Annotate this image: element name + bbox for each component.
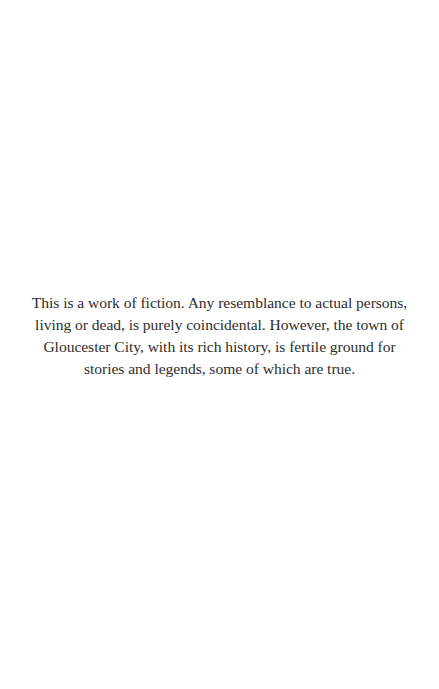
disclaimer-line-2: living or dead, is purely coincidental. … (30, 314, 409, 336)
disclaimer-line-3: Gloucester City, with its rich history, … (30, 336, 409, 358)
book-page: This is a work of fiction. Any resemblan… (0, 0, 439, 689)
disclaimer-line-1: This is a work of fiction. Any resemblan… (30, 292, 409, 314)
disclaimer-line-4: stories and legends, some of which are t… (30, 358, 409, 380)
fiction-disclaimer: This is a work of fiction. Any resemblan… (30, 292, 409, 380)
